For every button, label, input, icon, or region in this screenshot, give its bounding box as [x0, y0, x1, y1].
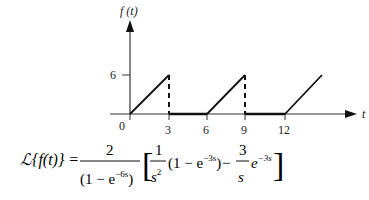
minus-sign: −: [222, 155, 230, 171]
x-tick-label-3: 3: [165, 123, 171, 137]
paren-expression: (1 − e−3s): [168, 153, 221, 172]
right-bracket: ]: [273, 146, 284, 183]
graph: f (t) t 6 0 3 6 9 12 ℒ{f(t)} = 2 (1 − e−…: [0, 0, 369, 200]
fraction-2-numerator: 1: [155, 142, 163, 158]
equation-lhs: ℒ{f(t)} =: [20, 151, 79, 169]
ramp-1: [130, 75, 169, 114]
x-axis-label: t: [362, 107, 366, 121]
x-axis-arrow-icon: [345, 110, 357, 118]
laplace-equation: ℒ{f(t)} = 2 (1 − e−6s) [ 1 s2 (1 − e−3s)…: [20, 142, 284, 188]
fraction-3-numerator: 3: [239, 142, 247, 158]
x-tick-label-9: 9: [241, 123, 247, 137]
fraction-1-denominator: (1 − e−6s): [80, 169, 133, 188]
fraction-1-numerator: 2: [106, 142, 114, 158]
ramp-2: [207, 75, 245, 114]
fraction-3-denominator: s: [238, 169, 244, 185]
x-tick-label-12: 12: [278, 123, 290, 137]
y-axis-label: f (t): [120, 4, 138, 18]
y-axis-arrow-icon: [126, 20, 134, 32]
origin-label: 0: [119, 119, 125, 133]
y-tick-label-6: 6: [110, 68, 116, 82]
ramp-3: [285, 75, 322, 114]
fraction-2-denominator: s2: [151, 167, 161, 185]
x-tick-label-6: 6: [203, 123, 209, 137]
exponential-term: e−3s: [251, 153, 272, 171]
